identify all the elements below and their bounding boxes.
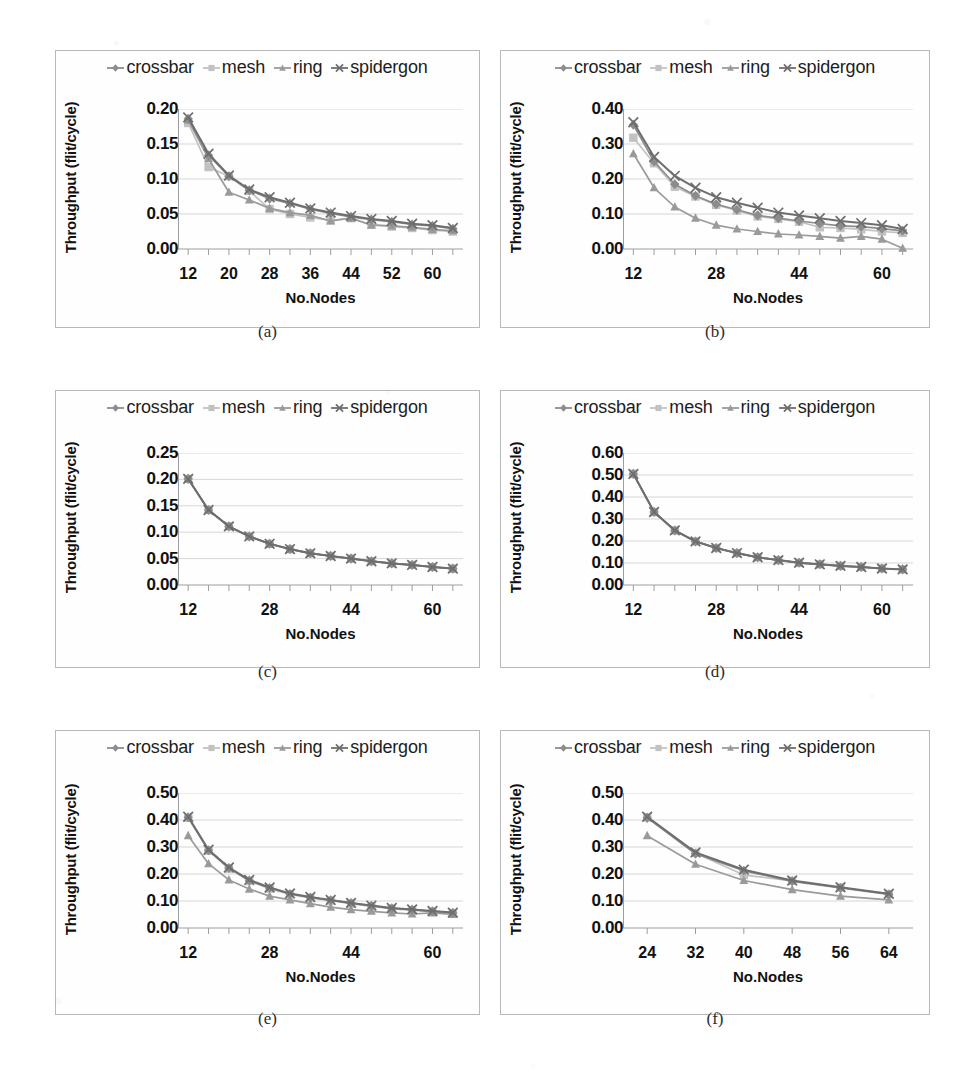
legend-label-ring: ring (741, 737, 770, 758)
series-line (633, 474, 902, 570)
chart-plot-frame-b: crossbarmeshringspidergonThroughput (fli… (500, 50, 930, 328)
triangle-marker (722, 401, 739, 415)
y-tick-label: 0.20 (64, 99, 178, 119)
diamond-marker (107, 401, 124, 415)
legend-item-mesh[interactable]: mesh (203, 737, 265, 758)
legend-item-crossbar[interactable]: crossbar (555, 397, 641, 418)
y-tick-label: 0.10 (509, 204, 623, 224)
legend-item-mesh[interactable]: mesh (203, 397, 265, 418)
chart-legend-c: crossbarmeshringspidergon (56, 397, 479, 418)
legend-item-spidergon[interactable]: spidergon (331, 737, 427, 758)
square-marker (650, 401, 667, 415)
plot-area-c: Throughput (flit/cycle)0.000.050.100.150… (178, 453, 463, 585)
y-tick-label: 0.10 (509, 553, 623, 573)
x-tick-label: 52 (383, 265, 401, 283)
cross-marker (331, 741, 348, 755)
square-marker (650, 741, 667, 755)
legend-item-ring[interactable]: ring (722, 737, 770, 758)
y-tick-label: 0.20 (509, 531, 623, 551)
legend-item-ring[interactable]: ring (274, 57, 322, 78)
triangle-marker (274, 741, 291, 755)
y-tick-label: 0.20 (509, 169, 623, 189)
triangle-marker (722, 61, 739, 75)
x-axis-title-f: No.Nodes (623, 968, 913, 985)
legend-item-spidergon[interactable]: spidergon (779, 397, 875, 418)
data-point-marker (691, 213, 700, 221)
data-point-marker (629, 134, 637, 142)
series-mesh (629, 134, 907, 238)
plot-area-a: Throughput (flit/cycle)0.000.050.100.150… (178, 109, 463, 249)
square-marker (203, 741, 220, 755)
legend-item-mesh[interactable]: mesh (203, 57, 265, 78)
y-tick-label: 0.40 (509, 99, 623, 119)
legend-label-spidergon: spidergon (350, 397, 427, 418)
chart-panel-c: crossbarmeshringspidergonThroughput (fli… (55, 390, 480, 668)
legend-item-mesh[interactable]: mesh (650, 737, 712, 758)
legend-item-spidergon[interactable]: spidergon (779, 57, 875, 78)
x-axis-title-a: No.Nodes (178, 289, 463, 306)
y-tick-label: 0.20 (64, 469, 178, 489)
series-line (647, 818, 889, 895)
legend-item-spidergon[interactable]: spidergon (331, 397, 427, 418)
legend-item-crossbar[interactable]: crossbar (107, 737, 193, 758)
legend-item-crossbar[interactable]: crossbar (107, 57, 193, 78)
legend-item-crossbar[interactable]: crossbar (555, 737, 641, 758)
series-line (633, 474, 902, 570)
legend-item-crossbar[interactable]: crossbar (555, 57, 641, 78)
legend-item-crossbar[interactable]: crossbar (107, 397, 193, 418)
y-tick-label: 0.20 (64, 864, 178, 884)
x-tick-label: 28 (707, 601, 725, 619)
legend-label-crossbar: crossbar (574, 57, 641, 78)
cross-marker (779, 401, 796, 415)
x-tick-label: 32 (687, 944, 705, 962)
x-tick-label: 28 (261, 601, 279, 619)
legend-label-mesh: mesh (669, 57, 712, 78)
x-tick-label: 12 (624, 601, 642, 619)
plot-canvas-f (623, 793, 913, 938)
plot-canvas-a (178, 109, 463, 259)
square-marker (650, 61, 667, 75)
y-tick-label: 0.40 (509, 810, 623, 830)
x-tick-label: 44 (342, 601, 360, 619)
legend-item-ring[interactable]: ring (722, 57, 770, 78)
legend-label-ring: ring (741, 397, 770, 418)
y-tick-label: 0.30 (509, 134, 623, 154)
legend-label-crossbar: crossbar (574, 397, 641, 418)
legend-label-mesh: mesh (222, 397, 265, 418)
x-tick-label: 40 (735, 944, 753, 962)
y-tick-label: 0.40 (509, 487, 623, 507)
legend-item-ring[interactable]: ring (722, 397, 770, 418)
y-tick-label: 0.50 (509, 783, 623, 803)
chart-plot-frame-a: crossbarmeshringspidergonThroughput (fli… (55, 50, 480, 328)
x-tick-label: 60 (424, 601, 442, 619)
y-tick-label: 0.60 (509, 443, 623, 463)
x-tick-label: 28 (707, 265, 725, 283)
legend-item-ring[interactable]: ring (274, 397, 322, 418)
legend-item-mesh[interactable]: mesh (650, 57, 712, 78)
series-spidergon (629, 469, 908, 574)
legend-item-ring[interactable]: ring (274, 737, 322, 758)
chart-panel-b: crossbarmeshringspidergonThroughput (fli… (500, 50, 930, 328)
y-tick-label: 0.05 (64, 549, 178, 569)
y-tick-label: 0.00 (64, 918, 178, 938)
legend-item-spidergon[interactable]: spidergon (331, 57, 427, 78)
cross-marker (779, 741, 796, 755)
legend-label-spidergon: spidergon (798, 737, 875, 758)
legend-item-mesh[interactable]: mesh (650, 397, 712, 418)
legend-label-spidergon: spidergon (798, 397, 875, 418)
chart-panel-a: crossbarmeshringspidergonThroughput (fli… (55, 50, 480, 328)
square-marker (203, 61, 220, 75)
legend-label-crossbar: crossbar (574, 737, 641, 758)
chart-legend-b: crossbarmeshringspidergon (501, 57, 929, 78)
y-tick-label: 0.30 (509, 837, 623, 857)
legend-label-spidergon: spidergon (798, 57, 875, 78)
chart-plot-frame-d: crossbarmeshringspidergonThroughput (fli… (500, 390, 930, 668)
x-tick-label: 64 (880, 944, 898, 962)
x-tick-label: 20 (220, 265, 238, 283)
x-tick-label: 12 (179, 601, 197, 619)
y-tick-label: 0.25 (64, 443, 178, 463)
x-tick-label: 12 (179, 944, 197, 962)
legend-item-spidergon[interactable]: spidergon (779, 737, 875, 758)
legend-label-ring: ring (741, 57, 770, 78)
data-point-marker (691, 859, 700, 867)
